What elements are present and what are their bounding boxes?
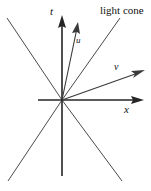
- diagram-canvas: [0, 0, 151, 191]
- v-vector-label: v: [114, 62, 118, 72]
- v-vector-arrowhead: [131, 70, 145, 78]
- t-axis-label: t: [50, 6, 53, 17]
- light-cone-label: light cone: [100, 5, 144, 16]
- light-cone-diagram: t u v x light cone: [0, 0, 151, 191]
- x-axis-label: x: [124, 104, 129, 115]
- light-cone-lower-right-line: [62, 100, 122, 181]
- u-vector-label: u: [76, 36, 81, 45]
- light-cone-lower-left-line: [8, 100, 62, 181]
- light-cone-upper-left-line: [7, 18, 62, 100]
- v-vector-line: [62, 73, 138, 100]
